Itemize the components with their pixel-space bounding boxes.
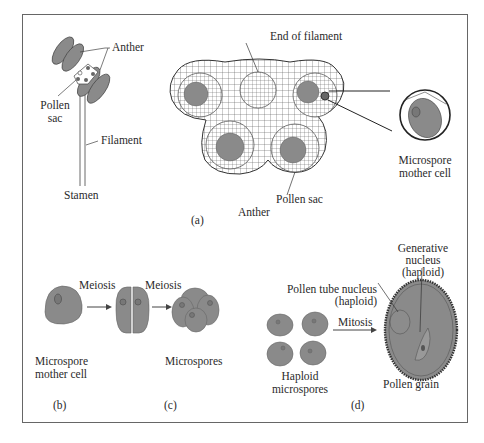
meiosis-arrow-2 [152,304,172,310]
label-mmc-1: Microspore [385,154,465,167]
caption-c: (c) [164,399,177,412]
label-meiosis-2: Meiosis [145,279,181,292]
label-stamen: Stamen [64,189,99,202]
label-tube-nucleus-2: (haploid) [262,295,377,308]
dyad-cells [116,287,149,333]
microspore-mother-cell-magnified [328,90,450,142]
microspore-mother-cell-b [45,286,82,324]
anther-cross-section [170,43,344,195]
label-haploid-1: Haploid [270,370,330,383]
label-filament: Filament [101,134,142,147]
label-end-of-filament: End of filament [270,30,342,43]
label-generative-3: (haploid) [395,266,451,279]
label-mmc-b-1: Microspore [35,355,88,368]
label-mmc-2: mother cell [385,167,465,180]
label-meiosis-1: Meiosis [79,279,115,292]
tetrad-cells [172,288,219,332]
label-anther-section: Anther [238,206,270,219]
label-anther: Anther [112,41,144,54]
label-microspores: Microspores [165,355,223,368]
haploid-microspores [267,312,328,366]
label-haploid-2: microspores [262,383,338,396]
caption-d: (d) [351,399,364,412]
label-mitosis: Mitosis [338,316,373,329]
caption-b: (b) [53,399,66,412]
label-pollen-sac-2: sac [35,112,75,125]
caption-a: (a) [191,214,204,227]
pollen-grain [378,268,457,380]
label-pollen-sac-1: Pollen [35,99,75,112]
label-mmc-b-2: mother cell [35,368,87,381]
meiosis-arrow-1 [87,304,112,310]
label-pollen-sac: Pollen sac [276,193,323,206]
label-pollen-grain: Pollen grain [383,378,439,391]
